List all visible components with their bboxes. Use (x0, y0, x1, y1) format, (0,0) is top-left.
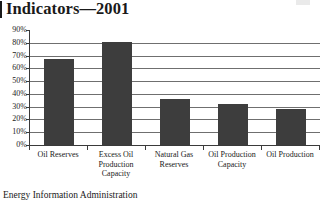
bar-slot (30, 30, 88, 145)
y-tick-label: 70% (0, 52, 27, 60)
bar-series (30, 30, 320, 145)
bar-slot (88, 30, 146, 145)
source-caption: Energy Information Administration (3, 190, 137, 201)
bar (44, 59, 74, 145)
y-tick-label: 0% (0, 141, 27, 149)
x-category-label: Excess Oil Production Capacity (87, 150, 145, 179)
bar (102, 42, 132, 146)
bar (218, 104, 248, 145)
page-title: Indicators—2001 (0, 0, 328, 22)
y-tick-label: 60% (0, 64, 27, 72)
y-tick-label: 50% (0, 77, 27, 85)
bar (160, 99, 190, 145)
x-category-label: Oil Production Capacity (203, 150, 261, 169)
y-tick-label: 90% (0, 26, 27, 34)
bar-slot (262, 30, 320, 145)
y-axis-tick-labels: 90%80%70%60%50%40%30%20%10%0% (0, 24, 27, 148)
y-tick-label: 10% (0, 128, 27, 136)
bar (276, 109, 306, 145)
bar-slot (146, 30, 204, 145)
bar-chart: 90%80%70%60%50%40%30%20%10%0% Oil Reserv… (0, 24, 328, 184)
y-tick-label: 40% (0, 90, 27, 98)
bar-slot (204, 30, 262, 145)
plot-area (29, 30, 320, 146)
x-category-label: Oil Production (261, 150, 319, 160)
y-tick-label: 80% (0, 39, 27, 47)
x-category-label: Natural Gas Reserves (145, 150, 203, 169)
x-category-label: Oil Reserves (29, 150, 87, 160)
title-text: Indicators—2001 (2, 0, 129, 18)
y-tick-label: 30% (0, 103, 27, 111)
y-tick-label: 20% (0, 115, 27, 123)
x-axis-category-labels: Oil ReservesExcess Oil Production Capaci… (29, 150, 320, 184)
cropped-page-artifact (296, 0, 310, 5)
